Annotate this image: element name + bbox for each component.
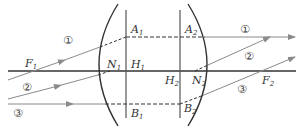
thick-lens-diagram: ① ② ③ ① ② ③ F1 N1 H1 A1 B1 A2 H2 N2 B2 F… xyxy=(0,0,300,129)
ray-1-label-left: ① xyxy=(63,34,73,47)
ray-3-label-left: ③ xyxy=(13,107,23,120)
label-a2: A2 xyxy=(184,23,198,37)
label-n2: N2 xyxy=(191,74,207,88)
label-h2: H2 xyxy=(164,74,180,88)
label-a1: A1 xyxy=(130,23,143,37)
label-b1: B1 xyxy=(130,107,144,121)
label-f2: F2 xyxy=(261,74,275,88)
label-n1: N1 xyxy=(106,58,121,72)
ray-2-label-right: ② xyxy=(244,50,254,63)
label-f1: F1 xyxy=(24,57,37,71)
ray-3-label-right: ③ xyxy=(237,83,247,96)
ray-2-label-left: ② xyxy=(22,81,32,94)
label-h1: H1 xyxy=(130,58,145,72)
label-b2: B2 xyxy=(183,102,197,116)
ray-3 xyxy=(8,57,295,104)
ray-1-label-right: ① xyxy=(240,23,250,36)
